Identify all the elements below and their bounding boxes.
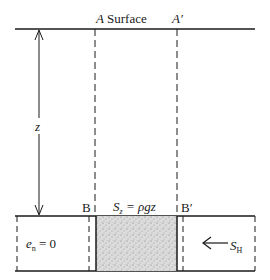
label-normal-strain: en = 0 [26,237,56,253]
label-depth-z: z [35,120,40,133]
label-surface: Surface [107,12,147,25]
label-a-prime: A′ [172,12,183,25]
label-a: A [96,12,104,25]
label-horizontal-stress: SH [230,239,242,255]
label-b: B [82,201,91,214]
geostatic-stress-diagram: A Surface A′ z B B′ Sz = ρgz en = 0 SH [0,0,270,280]
label-vertical-stress: Sz = ρgz [113,200,156,216]
stressed-element [96,216,177,271]
label-b-prime: B′ [181,201,193,214]
